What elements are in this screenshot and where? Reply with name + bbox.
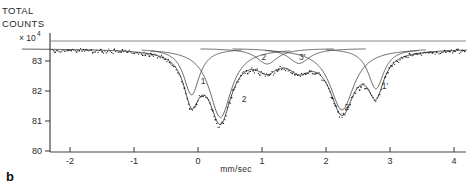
- data-point: [107, 51, 108, 52]
- data-point: [351, 97, 352, 98]
- data-point: [463, 50, 464, 51]
- data-point: [195, 106, 196, 107]
- data-point: [95, 51, 96, 52]
- data-point: [384, 76, 386, 78]
- x-tick-label: 4: [451, 156, 456, 166]
- data-point: [144, 54, 146, 56]
- data-point: [157, 57, 158, 58]
- data-point: [127, 51, 129, 53]
- data-point: [85, 49, 87, 51]
- data-point: [133, 53, 134, 54]
- data-point: [320, 74, 321, 75]
- data-point: [250, 71, 251, 72]
- data-point: [104, 50, 105, 51]
- data-point: [177, 72, 178, 73]
- data-point: [336, 105, 337, 106]
- data-point: [296, 74, 297, 75]
- data-point: [266, 73, 267, 74]
- data-point: [428, 52, 429, 53]
- x-axis-ticks: -2-101234: [66, 147, 457, 166]
- data-point: [293, 71, 294, 72]
- x-axis-label: mm/sec: [220, 164, 252, 174]
- data-point: [96, 50, 97, 51]
- data-point: [60, 51, 61, 52]
- data-point: [64, 51, 65, 52]
- panel-label: b: [6, 169, 14, 184]
- data-point: [153, 56, 154, 57]
- data-point: [223, 123, 224, 124]
- data-point: [289, 70, 290, 71]
- data-point: [87, 49, 88, 50]
- data-point: [89, 50, 90, 51]
- data-point: [300, 76, 301, 77]
- data-point: [451, 49, 452, 50]
- data-point: [267, 75, 268, 76]
- data-point: [243, 71, 244, 72]
- data-point: [313, 73, 314, 74]
- data-point: [58, 51, 59, 52]
- y-tick-label: 82: [32, 86, 42, 96]
- y-axis-ticks: 83828180: [32, 56, 50, 156]
- data-point: [242, 72, 243, 73]
- data-point: [197, 100, 198, 101]
- data-point: [204, 95, 205, 96]
- data-point: [282, 68, 283, 69]
- data-point: [395, 60, 396, 61]
- data-point: [378, 95, 379, 96]
- data-point: [314, 73, 316, 75]
- data-point: [220, 123, 221, 124]
- data-point: [445, 51, 447, 53]
- data-point: [219, 126, 220, 127]
- data-point: [340, 113, 341, 114]
- data-point: [298, 74, 299, 75]
- data-point: [126, 51, 127, 52]
- data-point: [155, 54, 156, 55]
- data-point: [444, 50, 446, 52]
- data-point: [261, 71, 262, 72]
- data-point: [203, 96, 204, 97]
- data-point: [404, 56, 405, 57]
- data-point: [240, 75, 242, 77]
- data-point: [92, 52, 94, 54]
- data-point: [251, 67, 252, 68]
- data-point: [286, 68, 287, 69]
- data-point: [394, 64, 395, 65]
- data-point: [412, 55, 413, 56]
- data-point: [238, 81, 239, 82]
- component-label: 2: [242, 94, 247, 104]
- data-point: [277, 70, 279, 72]
- data-point: [297, 75, 298, 76]
- data-point: [103, 52, 104, 53]
- data-point: [67, 50, 68, 51]
- data-point: [193, 106, 194, 107]
- data-point: [216, 123, 217, 124]
- data-point: [375, 101, 376, 102]
- data-point: [333, 103, 334, 104]
- data-point: [252, 70, 254, 72]
- data-point: [294, 74, 296, 76]
- data-point: [82, 49, 84, 51]
- data-point: [308, 73, 309, 74]
- data-point: [457, 48, 459, 50]
- data-point: [154, 54, 155, 55]
- data-point: [413, 54, 414, 55]
- data-point: [401, 57, 402, 58]
- y-tick-label: 80: [32, 146, 42, 156]
- data-point: [230, 103, 231, 104]
- data-point: [432, 52, 434, 54]
- data-point: [363, 83, 364, 84]
- data-point: [304, 73, 305, 74]
- data-point: [332, 98, 334, 100]
- data-point: [329, 91, 330, 92]
- data-point: [317, 72, 318, 73]
- data-point: [69, 49, 70, 50]
- data-point: [227, 107, 228, 108]
- data-point: [168, 59, 169, 60]
- data-point: [70, 50, 72, 52]
- data-point: [100, 49, 102, 51]
- y-axis-title-line2: COUNTS: [2, 18, 45, 29]
- data-point: [174, 66, 175, 67]
- data-point: [456, 49, 457, 50]
- data-point: [78, 50, 80, 52]
- data-point: [188, 103, 189, 104]
